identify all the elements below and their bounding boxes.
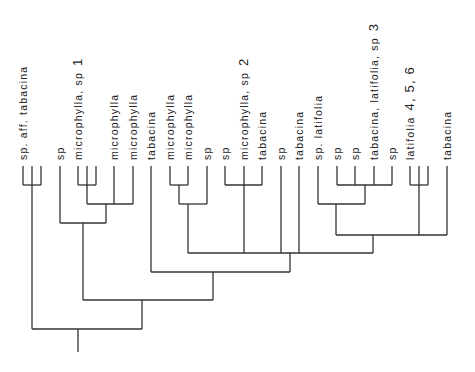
leaf-label: sp: [331, 147, 343, 161]
leaf-label: tabacina: [145, 111, 157, 160]
leaf-label: sp: [54, 147, 66, 161]
leaf-label: sp: [275, 147, 287, 161]
leaf-label: tabacina: [441, 111, 453, 160]
leaf-label: microphylla: [182, 94, 194, 160]
leaf-label: sp. aff. tabacina: [17, 66, 29, 160]
leaf-label: microphylla: [108, 94, 120, 160]
leaf-labels: sp. aff. tabacinaspmicrophylla, sp1micro…: [17, 23, 453, 160]
tree-edges: [23, 166, 447, 352]
leaf-label: latifolia4, 5, 6: [402, 66, 417, 160]
leaf-label: sp: [219, 147, 231, 161]
leaf-label: sp: [201, 147, 213, 161]
leaf-label: sp: [349, 147, 361, 161]
leaf-label: tabacina: [293, 111, 305, 160]
leaf-label: sp: [386, 147, 398, 161]
leaf-label: microphylla: [164, 94, 176, 160]
leaf-label: microphylla: [127, 94, 139, 160]
dendrogram: sp. aff. tabacinaspmicrophylla, sp1micro…: [0, 0, 475, 372]
leaf-label: tabacina, latifolia, sp3: [366, 23, 381, 160]
leaf-label: tabacina: [256, 111, 268, 160]
leaf-label: microphylla, sp1: [70, 58, 85, 160]
leaf-label: sp. latifolia: [312, 95, 324, 160]
leaf-label: microphylla, sp2: [236, 58, 251, 160]
